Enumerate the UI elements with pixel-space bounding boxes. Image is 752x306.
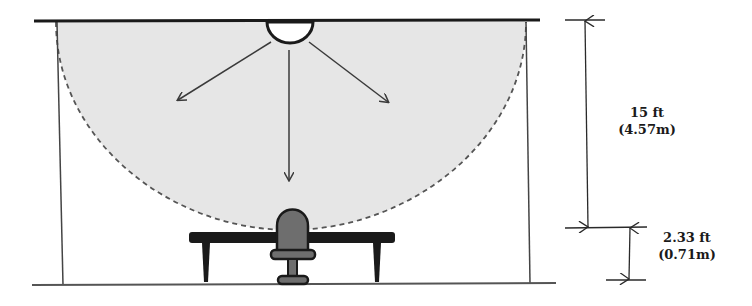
sensor-coverage-diagram bbox=[0, 0, 752, 306]
desk-height-metric: (0.71m) bbox=[652, 246, 722, 263]
chair bbox=[271, 210, 315, 285]
dimension-desk-to-floor bbox=[606, 228, 646, 280]
desk-height-imperial: 2.33 ft bbox=[652, 229, 722, 246]
ceiling-height-imperial: 15 ft bbox=[612, 104, 682, 121]
right-wall bbox=[526, 22, 530, 283]
coverage-area bbox=[56, 22, 526, 230]
ceiling-height-label: 15 ft (4.57m) bbox=[612, 104, 682, 138]
ceiling-height-metric: (4.57m) bbox=[612, 121, 682, 138]
desk-height-label: 2.33 ft (0.71m) bbox=[652, 229, 722, 263]
